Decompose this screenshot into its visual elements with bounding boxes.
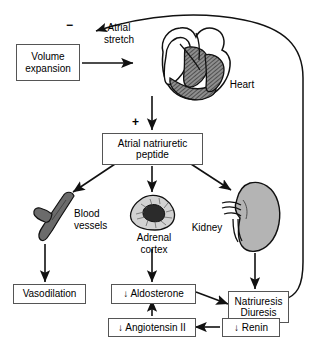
arrow-anp-to-vessels: [73, 164, 115, 192]
blood-vessels-line1: Blood: [74, 208, 122, 220]
atrial-stretch-line2: stretch: [92, 34, 146, 46]
arrow-anp-to-kidney: [191, 164, 231, 190]
vasodilation-label: Vasodilation: [23, 288, 77, 300]
stimulation-sign: +: [132, 117, 139, 127]
label-blood-vessels: Blood vessels: [74, 208, 122, 231]
aldosterone-label: ↓ Aldosterone: [123, 288, 184, 300]
adrenal-cortex-illustration: [131, 195, 175, 230]
adrenal-line1: Adrenal: [126, 232, 182, 244]
anp-label-line1: Atrial natriuretic: [118, 138, 187, 150]
atrial-stretch-line1: Atrial: [92, 22, 146, 34]
box-vasodilation[interactable]: Vasodilation: [13, 284, 86, 304]
blood-vessels-line2: vessels: [74, 220, 122, 232]
box-aldosterone[interactable]: ↓ Aldosterone: [111, 284, 196, 304]
negative-feedback-sign: −: [66, 20, 73, 30]
label-atrial-stretch: Atrial stretch: [92, 22, 146, 45]
natriuresis-label-line2: Diuresis: [240, 307, 276, 319]
angiotensin-label: ↓ Angiotensin II: [118, 322, 186, 334]
natriuresis-label-line1: Natriuresis: [235, 296, 283, 308]
label-kidney: Kidney: [186, 222, 228, 234]
heart-illustration: [162, 28, 230, 100]
arrow-aldosterone-to-natriuresis: [196, 292, 228, 304]
renin-label: ↓ Renin: [234, 322, 268, 334]
box-atrial-natriuretic-peptide[interactable]: Atrial natriuretic peptide: [102, 133, 203, 165]
box-renin[interactable]: ↓ Renin: [222, 318, 280, 337]
box-angiotensin-ii[interactable]: ↓ Angiotensin II: [108, 318, 196, 337]
anp-label-line2: peptide: [136, 149, 169, 161]
kidney-illustration: [222, 182, 280, 251]
adrenal-line2: cortex: [126, 244, 182, 256]
label-adrenal-cortex: Adrenal cortex: [126, 232, 182, 255]
label-heart: Heart: [222, 79, 262, 91]
volume-expansion-label-line1: Volume: [31, 51, 64, 63]
anp-pathway-diagram: Volume expansion Atrial natriuretic pept…: [0, 0, 317, 353]
volume-expansion-label-line2: expansion: [25, 63, 71, 75]
box-volume-expansion[interactable]: Volume expansion: [16, 44, 80, 81]
blood-vessel-illustration: [34, 192, 74, 240]
